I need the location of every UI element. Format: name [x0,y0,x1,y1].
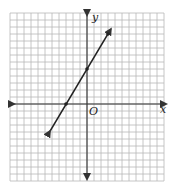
origin-label: O [89,105,98,118]
y-axis-label: y [91,11,99,24]
x-axis-label: x [160,103,167,116]
line-point [64,102,68,106]
line-point [106,32,110,36]
line-point [85,67,89,71]
coordinate-plane: xyO [0,0,179,192]
